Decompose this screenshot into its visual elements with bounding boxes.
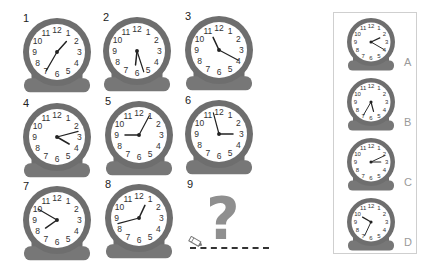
svg-text:6: 6: [137, 235, 142, 245]
svg-text:12: 12: [368, 143, 375, 149]
svg-text:4: 4: [74, 143, 79, 153]
svg-text:7: 7: [43, 151, 48, 161]
cell-number-1: 1: [23, 12, 29, 24]
clock-4: 121234567891011: [21, 101, 93, 178]
option-label-B[interactable]: B: [404, 116, 411, 128]
svg-text:2: 2: [156, 202, 161, 212]
svg-text:7: 7: [123, 65, 128, 75]
clock-5: 121234567891011: [103, 99, 175, 176]
svg-text:1: 1: [66, 196, 71, 206]
svg-text:12: 12: [52, 110, 62, 120]
svg-text:11: 11: [360, 25, 367, 31]
svg-text:9: 9: [194, 45, 199, 55]
svg-text:2: 2: [74, 204, 79, 214]
svg-text:1: 1: [148, 111, 153, 121]
svg-text:11: 11: [360, 205, 367, 211]
svg-text:3: 3: [159, 130, 164, 140]
option-label-A[interactable]: A: [404, 56, 411, 68]
svg-text:6: 6: [55, 237, 60, 247]
svg-text:9: 9: [32, 47, 37, 57]
cell-number-4: 4: [23, 97, 29, 109]
svg-text:1: 1: [228, 110, 233, 120]
svg-text:1: 1: [228, 26, 233, 36]
clock-6: 121234567891011: [183, 98, 255, 175]
cell-number-9: 9: [187, 178, 193, 190]
option-clock-C[interactable]: 121234567891011: [345, 136, 397, 191]
cell-number-2: 2: [103, 11, 109, 23]
svg-text:8: 8: [197, 56, 202, 66]
svg-text:12: 12: [368, 203, 375, 209]
svg-text:7: 7: [125, 149, 130, 159]
svg-text:11: 11: [41, 113, 50, 123]
svg-text:9: 9: [114, 130, 119, 140]
svg-text:4: 4: [156, 141, 161, 151]
svg-text:12: 12: [52, 193, 62, 203]
svg-text:5: 5: [146, 65, 151, 75]
svg-text:11: 11: [41, 28, 50, 38]
svg-text:12: 12: [214, 107, 224, 117]
svg-text:7: 7: [43, 234, 48, 244]
svg-text:11: 11: [123, 194, 132, 204]
svg-text:10: 10: [354, 151, 361, 157]
answer-line[interactable]: [190, 247, 269, 249]
svg-text:12: 12: [134, 191, 144, 201]
svg-text:10: 10: [354, 31, 361, 37]
svg-text:11: 11: [203, 110, 212, 120]
svg-text:8: 8: [117, 224, 122, 234]
svg-text:11: 11: [123, 111, 132, 121]
option-clock-D[interactable]: 121234567891011: [345, 196, 397, 251]
svg-text:10: 10: [354, 91, 361, 97]
svg-text:11: 11: [121, 27, 130, 37]
svg-text:4: 4: [154, 57, 159, 67]
svg-text:2: 2: [236, 118, 241, 128]
svg-text:1: 1: [148, 194, 153, 204]
option-clock-A[interactable]: 121234567891011: [345, 16, 397, 71]
svg-text:5: 5: [66, 234, 71, 244]
svg-text:7: 7: [205, 148, 210, 158]
svg-text:7: 7: [205, 64, 210, 74]
svg-text:9: 9: [32, 215, 37, 225]
svg-text:6: 6: [217, 151, 222, 161]
svg-text:8: 8: [115, 57, 120, 67]
svg-text:7: 7: [125, 232, 130, 242]
svg-text:6: 6: [217, 67, 222, 77]
svg-text:5: 5: [148, 149, 153, 159]
clock-8: 121234567891011: [103, 182, 175, 259]
svg-text:11: 11: [360, 145, 367, 151]
svg-text:8: 8: [35, 226, 40, 236]
svg-text:5: 5: [228, 64, 233, 74]
svg-text:3: 3: [77, 132, 82, 142]
svg-text:5: 5: [66, 151, 71, 161]
cell-number-5: 5: [105, 95, 111, 107]
svg-text:6: 6: [137, 152, 142, 162]
svg-text:9: 9: [114, 213, 119, 223]
svg-text:3: 3: [239, 45, 244, 55]
svg-text:2: 2: [74, 121, 79, 131]
svg-text:8: 8: [197, 140, 202, 150]
svg-text:3: 3: [77, 215, 82, 225]
svg-text:11: 11: [41, 196, 50, 206]
svg-text:5: 5: [228, 148, 233, 158]
svg-text:3: 3: [77, 47, 82, 57]
svg-text:12: 12: [368, 83, 375, 89]
svg-text:9: 9: [32, 132, 37, 142]
cell-number-8: 8: [105, 178, 111, 190]
svg-text:1: 1: [146, 27, 151, 37]
svg-text:9: 9: [194, 129, 199, 139]
svg-text:1: 1: [66, 28, 71, 38]
option-clock-B[interactable]: 121234567891011: [345, 76, 397, 131]
svg-text:5: 5: [148, 232, 153, 242]
svg-text:12: 12: [368, 23, 375, 29]
svg-text:5: 5: [66, 66, 71, 76]
svg-text:4: 4: [74, 226, 79, 236]
option-label-D[interactable]: D: [404, 236, 412, 248]
cell-number-7: 7: [23, 180, 29, 192]
svg-text:3: 3: [157, 46, 162, 56]
option-label-C[interactable]: C: [404, 176, 412, 188]
svg-text:2: 2: [236, 34, 241, 44]
svg-text:6: 6: [55, 154, 60, 164]
svg-text:12: 12: [132, 24, 142, 34]
svg-text:3: 3: [239, 129, 244, 139]
svg-text:4: 4: [74, 58, 79, 68]
svg-text:9: 9: [112, 46, 117, 56]
